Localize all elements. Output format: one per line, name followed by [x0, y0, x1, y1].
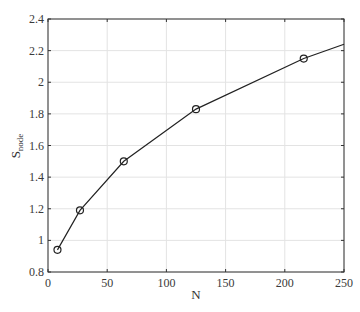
x-tick-label: 150 — [217, 276, 235, 290]
data-series — [54, 44, 344, 253]
y-tick-label: 1.2 — [29, 202, 44, 216]
x-tick-label: 100 — [157, 276, 175, 290]
y-tick-label: 1 — [38, 233, 44, 247]
y-tick-label: 1.4 — [29, 170, 44, 184]
y-tick-label: 2 — [38, 75, 44, 89]
y-tick-label: 1.8 — [29, 107, 44, 121]
grid-lines — [48, 19, 344, 272]
x-tick-label: 0 — [45, 276, 51, 290]
y-axis-label: Snode — [8, 134, 25, 159]
y-tick-label: 1.6 — [29, 139, 44, 153]
x-axis-label: N — [191, 287, 201, 302]
line-chart: 050100150200250 0.811.21.41.61.822.22.4 … — [0, 0, 360, 312]
y-tick-label: 0.8 — [29, 265, 44, 279]
x-tick-label: 250 — [335, 276, 353, 290]
x-tick-label: 200 — [276, 276, 294, 290]
y-tick-label: 2.4 — [29, 12, 44, 26]
x-tick-label: 50 — [101, 276, 113, 290]
y-tick-label: 2.2 — [29, 44, 44, 58]
